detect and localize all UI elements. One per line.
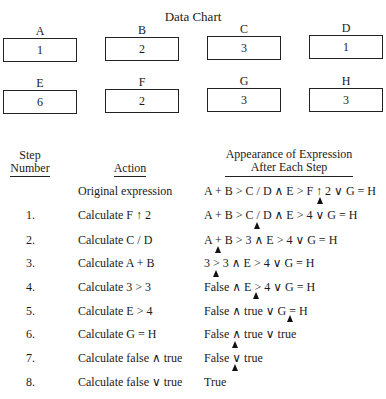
pointer-marker-icon	[213, 270, 219, 277]
cell-value: 1	[3, 38, 77, 62]
step-row-5: 5. Calculate E > 4 False ∧ true ∨ G = H	[0, 304, 386, 324]
cell-f: F 2	[105, 75, 179, 113]
step-expression: A + B > C / D ∧ E > F ↑ 2 ∨ G = H	[204, 184, 376, 199]
cell-label: A	[3, 24, 77, 38]
step-number: 1.	[26, 208, 35, 223]
pointer-marker-icon	[215, 246, 221, 253]
step-row-4: 4. Calculate 3 > 3 False ∧ E > 4 ∨ G = H	[0, 280, 386, 300]
cell-e: E 6	[3, 76, 77, 114]
cell-label: E	[3, 76, 77, 90]
cell-d: D 1	[309, 21, 383, 59]
cell-label: G	[207, 74, 281, 88]
step-row-1: 1. Calculate F ↑ 2 A + B > C / D ∧ E > 4…	[0, 208, 386, 228]
cell-label: B	[105, 23, 179, 37]
step-expression: 3 > 3 ∧ E > 4 ∨ G = H	[204, 256, 315, 271]
cell-value: 3	[309, 88, 383, 112]
step-number: 7.	[26, 351, 35, 366]
cell-label: F	[105, 75, 179, 89]
step-action: Calculate false ∨ true	[78, 375, 182, 390]
pointer-marker-icon	[317, 197, 323, 204]
step-action: Calculate F ↑ 2	[78, 208, 151, 223]
step-number: 8.	[26, 375, 35, 390]
step-expression: A + B > 3 ∧ E > 4 ∨ G = H	[204, 233, 337, 248]
pointer-marker-icon	[287, 315, 293, 322]
step-action: Calculate G = H	[78, 327, 156, 342]
step-number: 3.	[26, 256, 35, 271]
step-row-3: 3. Calculate A + B 3 > 3 ∧ E > 4 ∨ G = H	[0, 256, 386, 276]
header-action-label: Action	[114, 162, 147, 177]
step-number: 4.	[26, 280, 35, 295]
cell-value: 2	[105, 37, 179, 61]
cell-g: G 3	[207, 74, 281, 112]
step-action: Original expression	[78, 184, 172, 199]
cell-value: 6	[3, 90, 77, 114]
cell-h: H 3	[309, 74, 383, 112]
step-expression: True	[204, 375, 226, 390]
step-number: 2.	[26, 233, 35, 248]
header-expr-line2: After Each Step	[225, 161, 353, 177]
step-number: 6.	[26, 327, 35, 342]
step-row-original: Original expression A + B > C / D ∧ E > …	[0, 184, 386, 204]
step-row-6: 6. Calculate G = H False ∧ true ∨ true	[0, 327, 386, 347]
cell-c: C 3	[207, 22, 281, 60]
step-action: Calculate false ∧ true	[78, 351, 182, 366]
step-expression: False ∧ true ∨ true	[204, 327, 296, 342]
step-action: Calculate 3 > 3	[78, 280, 151, 295]
step-action: Calculate C / D	[78, 233, 152, 248]
header-action: Action	[100, 162, 160, 177]
cell-label: C	[207, 22, 281, 36]
pointer-marker-icon	[232, 364, 238, 371]
cell-label: H	[309, 74, 383, 88]
pointer-marker-icon	[232, 341, 238, 348]
cell-value: 3	[207, 36, 281, 60]
cell-value: 3	[207, 88, 281, 112]
cell-b: B 2	[105, 23, 179, 61]
step-number: 5.	[26, 304, 35, 319]
cell-value: 1	[309, 35, 383, 59]
step-row-2: 2. Calculate C / D A + B > 3 ∧ E > 4 ∨ G…	[0, 233, 386, 253]
step-action: Calculate A + B	[78, 256, 154, 271]
header-expression: Appearance of Expression After Each Step	[225, 148, 353, 177]
step-row-8: 8. Calculate false ∨ true True	[0, 375, 386, 395]
cell-value: 2	[105, 89, 179, 113]
cell-label: D	[309, 21, 383, 35]
header-step-number: Step Number	[10, 149, 50, 177]
step-action: Calculate E > 4	[78, 304, 152, 319]
header-step-line2: Number	[10, 162, 49, 177]
step-expression: A + B > C / D ∧ E > 4 ∨ G = H	[204, 208, 357, 223]
step-row-7: 7. Calculate false ∧ true False ∨ true	[0, 351, 386, 371]
pointer-marker-icon	[254, 222, 260, 229]
pointer-marker-icon	[253, 292, 259, 299]
step-expression: False ∧ E > 4 ∨ G = H	[204, 280, 315, 295]
cell-a: A 1	[3, 24, 77, 62]
